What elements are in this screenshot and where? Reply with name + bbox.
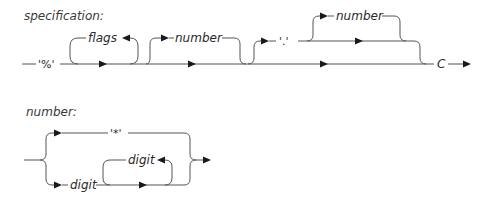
arrow-left-icon xyxy=(122,35,130,42)
arrow-left-icon xyxy=(157,157,165,164)
railroad-diagrams: specification: '%' flags number xyxy=(0,0,492,202)
loop-track-left xyxy=(103,160,126,185)
nonterminal-number: number xyxy=(336,9,384,23)
arrow-right-icon xyxy=(139,182,147,189)
arrow-right-icon xyxy=(320,61,328,68)
terminal-conversion: C xyxy=(437,57,446,71)
bypass-down xyxy=(414,41,426,64)
nonterminal-number: number xyxy=(175,31,223,45)
bypass-up xyxy=(248,41,262,64)
optional-number-1: number xyxy=(146,31,246,64)
rule-title-number: number: xyxy=(26,105,77,119)
choice-branch-up xyxy=(40,133,54,160)
rule-title-specification: specification: xyxy=(24,9,104,23)
syntax-diagram-canvas: specification: '%' flags number xyxy=(0,0,492,202)
arrow-right-icon xyxy=(261,38,269,45)
bypass-up xyxy=(146,38,162,64)
optional-precision-group: '.' number xyxy=(248,9,426,64)
terminal-star: '*' xyxy=(110,127,122,140)
arrow-right-icon xyxy=(188,61,196,68)
arrow-right-icon xyxy=(54,130,62,137)
choice-branch-down xyxy=(40,160,54,185)
nonterminal-digit: digit xyxy=(128,153,156,167)
nonterminal-digit: digit xyxy=(70,178,98,192)
arrow-right-icon xyxy=(355,38,363,45)
arrow-right-icon xyxy=(203,157,211,164)
nonterminal-flags: flags xyxy=(88,31,117,45)
arrow-right-icon xyxy=(54,182,62,189)
nested-bypass-down xyxy=(382,16,406,41)
specification-diagram: specification: '%' flags number xyxy=(22,9,471,71)
arrow-right-icon xyxy=(161,35,169,42)
arrow-right-icon xyxy=(99,61,107,68)
terminal-percent: '%' xyxy=(38,58,55,71)
loop-track-right xyxy=(165,160,172,185)
number-diagram: number: '*' digit digit xyxy=(24,105,211,192)
arrow-right-icon xyxy=(463,61,471,68)
flags-loop: flags xyxy=(70,31,138,64)
terminal-dot: '.' xyxy=(279,35,289,48)
bypass-down xyxy=(222,38,246,64)
arrow-right-icon xyxy=(320,13,328,20)
loop-track-left xyxy=(70,38,86,64)
choice-merge-down xyxy=(184,160,196,185)
loop-track-right xyxy=(130,38,138,64)
nested-bypass-up xyxy=(307,16,320,41)
